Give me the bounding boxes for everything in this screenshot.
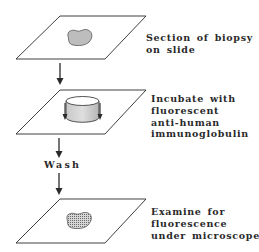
label-line: immunoglobulin xyxy=(151,128,249,140)
label-line: Section of biopsy xyxy=(146,32,253,44)
step-label-incubate: Incubate with fluorescent anti-human imm… xyxy=(151,93,249,140)
slide-incubate xyxy=(16,90,146,134)
step-label-section: Section of biopsy on slide xyxy=(146,32,253,56)
arrow-down-icon xyxy=(56,138,63,158)
label-line: fluorescence xyxy=(151,218,259,230)
label-line: under microscope xyxy=(151,230,259,242)
wash-label: Wash xyxy=(44,159,81,170)
label-line: on slide xyxy=(146,44,253,56)
arrow-down-icon xyxy=(56,173,63,195)
label-line: anti-human xyxy=(151,117,249,129)
arrow-down-icon xyxy=(57,63,64,85)
slide-examine xyxy=(16,199,146,243)
slide-section xyxy=(16,16,146,59)
label-line: Examine for xyxy=(151,206,259,218)
label-line: Incubate with xyxy=(151,93,249,105)
step-label-examine: Examine for fluorescence under microscop… xyxy=(151,206,259,241)
label-line: fluorescent xyxy=(151,105,249,117)
reagent-well-icon xyxy=(63,97,103,123)
